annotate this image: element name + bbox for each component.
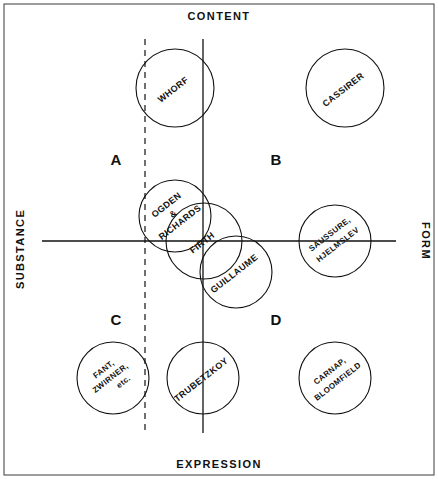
node-guillaume-label: GUILLAUME bbox=[209, 252, 260, 295]
node-guillaume[interactable]: GUILLAUME bbox=[200, 236, 272, 308]
axis-label-substance: SUBSTANCE bbox=[14, 209, 26, 289]
node-cassirer-label: CASSIRER bbox=[320, 70, 365, 109]
quadrant-letter-d: D bbox=[271, 311, 282, 328]
diagram-frame bbox=[4, 4, 434, 475]
node-trubetzkoy-label: TRUBETZKOY bbox=[172, 356, 230, 404]
quadrant-letter-c: C bbox=[111, 311, 122, 328]
axis-label-form: FORM bbox=[420, 222, 432, 260]
axis-label-expression: EXPRESSION bbox=[176, 458, 262, 470]
node-whorf[interactable]: WHORF bbox=[136, 49, 214, 127]
node-cassirer[interactable]: CASSIRER bbox=[306, 49, 384, 127]
node-whorf-label: WHORF bbox=[156, 75, 191, 105]
diagram-canvas: CONTENT EXPRESSION SUBSTANCE FORM A B C … bbox=[0, 0, 438, 479]
node-firth-label: FIRTH bbox=[188, 230, 217, 255]
node-carnap-bloomfield[interactable]: CARNAP, BLOOMFIELD bbox=[299, 342, 371, 414]
quadrant-letter-b: B bbox=[271, 151, 282, 168]
quadrant-diagram: CONTENT EXPRESSION SUBSTANCE FORM A B C … bbox=[0, 0, 438, 479]
quadrant-letter-a: A bbox=[111, 151, 122, 168]
axis-label-content: CONTENT bbox=[188, 10, 251, 22]
node-fant-zwirner[interactable]: FANT, ZWIRNER, etc. bbox=[77, 342, 149, 414]
